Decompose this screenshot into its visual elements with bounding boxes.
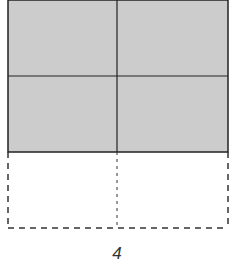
shaded-region [8,0,228,152]
dashed-extension [8,152,228,228]
bottom-dimension-label: 4 [107,244,127,263]
